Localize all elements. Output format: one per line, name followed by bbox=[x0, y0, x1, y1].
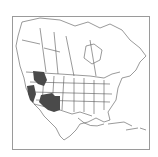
north-america-map bbox=[0, 0, 158, 157]
california-range bbox=[27, 85, 36, 103]
hudson-bay bbox=[84, 44, 102, 64]
caribbean-islands bbox=[108, 122, 146, 130]
southwest-range bbox=[39, 93, 60, 112]
